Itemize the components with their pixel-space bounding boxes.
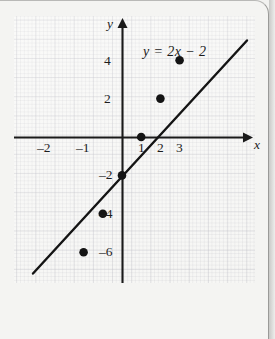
data-point	[118, 171, 127, 180]
x-tick-label-1: 1	[138, 140, 145, 156]
y-tick-label-4: 4	[104, 53, 111, 69]
y-tick-label-minus-4: –4	[99, 206, 113, 222]
data-point	[156, 94, 165, 103]
equation-annotation: y = 2x − 2	[143, 44, 206, 60]
line-y-equals-2x-minus-2	[33, 41, 247, 274]
x-tick-label-3: 3	[176, 140, 183, 156]
figure-page: y = 2x − 2 y x –2 –1 1 2 3 4 2 –2 –4 –6	[0, 0, 275, 339]
x-axis-label: x	[254, 137, 260, 153]
y-tick-label-2: 2	[104, 91, 111, 107]
x-tick-label-minus-2: –2	[37, 140, 51, 156]
x-tick-label-2: 2	[157, 140, 164, 156]
y-tick-label-minus-2: –2	[99, 167, 113, 183]
x-axis-arrowhead	[243, 133, 253, 143]
data-point	[79, 248, 88, 257]
coordinate-plane-plot	[0, 0, 275, 339]
y-axis-label: y	[107, 16, 113, 32]
x-tick-label-minus-1: –1	[76, 140, 90, 156]
y-axis-arrowhead	[118, 18, 128, 28]
y-tick-label-minus-6: –6	[99, 244, 113, 260]
